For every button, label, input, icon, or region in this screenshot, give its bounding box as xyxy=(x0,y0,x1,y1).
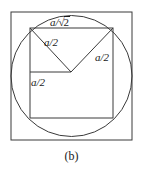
figure-canvas xyxy=(0,0,143,145)
radical-icon: √2 xyxy=(59,16,71,28)
label-hypotenuse-numerator: a/ xyxy=(50,16,59,28)
figure-caption: (b) xyxy=(0,150,143,162)
geometry-figure: a/√2 a/2 a/2 a/2 (b) xyxy=(0,0,143,172)
label-left-side: a/2 xyxy=(31,77,45,88)
label-right-diagonal: a/2 xyxy=(95,52,109,63)
label-hypotenuse: a/√2 xyxy=(50,16,70,28)
triangle-right-leg xyxy=(71,28,113,72)
label-hypotenuse-radicand: 2 xyxy=(64,16,71,28)
label-left-diagonal: a/2 xyxy=(44,37,58,48)
triangle-left-leg xyxy=(30,28,71,72)
outer-square xyxy=(11,12,132,140)
